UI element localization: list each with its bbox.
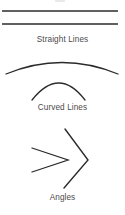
angle-narrow [32, 148, 68, 172]
caption-angles: Angles [0, 193, 125, 203]
angles-group [32, 129, 88, 188]
caption-curved-lines: Curved Lines [0, 103, 125, 113]
cropped-top-artifact [55, 0, 65, 2]
caption-straight-lines: Straight Lines [0, 35, 125, 45]
curved-lines-group [6, 63, 118, 101]
straight-lines-group [2, 11, 118, 24]
geometry-shapes-diagram: Straight Lines Curved Lines Angles [0, 0, 125, 215]
curved-line-outer-arc [6, 63, 118, 75]
curved-line-inner-arc [32, 83, 85, 100]
angle-wide [64, 129, 88, 188]
